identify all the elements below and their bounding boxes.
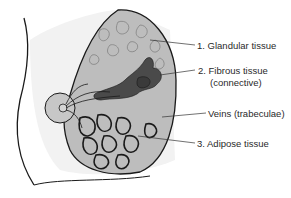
breast-illustration [0, 0, 291, 198]
nipple [59, 104, 67, 112]
label-glandular-tissue: 1. Glandular tissue [197, 40, 276, 51]
label-adipose-tissue: 3. Adipose tissue [197, 138, 269, 149]
inframammary-line [34, 176, 150, 185]
label-veins: Veins (trabeculae) [208, 108, 285, 119]
label-fibrous-tissue: 2. Fibrous tissue [198, 65, 268, 76]
diagram-canvas: 1. Glandular tissue 2. Fibrous tissue (c… [0, 0, 291, 198]
label-fibrous-connective: (connective) [210, 77, 262, 88]
